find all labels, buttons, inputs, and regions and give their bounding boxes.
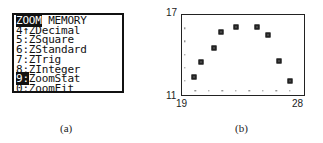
x-tick-mark bbox=[208, 90, 209, 91]
data-point bbox=[266, 32, 271, 37]
y-max-label: 17 bbox=[166, 7, 177, 18]
data-point bbox=[233, 24, 238, 29]
menu-item-key: 0: bbox=[16, 82, 29, 95]
y-tick-mark bbox=[184, 27, 185, 28]
x-min-label: 19 bbox=[176, 98, 187, 109]
caption-a: (a) bbox=[60, 122, 72, 134]
menu-item-zoomfit[interactable]: 0:ZoomFit bbox=[16, 84, 74, 94]
x-tick-mark bbox=[289, 90, 290, 91]
scatter-plot bbox=[181, 14, 305, 96]
data-point bbox=[192, 74, 197, 79]
x-max-label: 28 bbox=[292, 98, 303, 109]
x-tick-mark bbox=[235, 90, 236, 91]
x-tick-mark bbox=[195, 90, 196, 91]
y-tick-mark bbox=[184, 80, 185, 81]
zoom-menu-screen: ZOOM MEMORY 4↑ZDecimal5:ZSquare6:ZStanda… bbox=[12, 13, 124, 93]
data-point bbox=[218, 30, 223, 35]
data-point bbox=[255, 24, 260, 29]
y-tick-mark bbox=[184, 41, 185, 42]
x-tick-mark bbox=[222, 90, 223, 91]
data-point bbox=[276, 59, 281, 64]
data-point bbox=[212, 45, 217, 50]
y-tick-mark bbox=[184, 67, 185, 68]
caption-b: (b) bbox=[235, 122, 248, 134]
y-tick-mark bbox=[184, 54, 185, 55]
y-min-label: 11 bbox=[166, 90, 176, 101]
x-tick-mark bbox=[262, 90, 263, 91]
data-point bbox=[287, 78, 292, 83]
x-tick-mark bbox=[249, 90, 250, 91]
x-tick-mark bbox=[275, 90, 276, 91]
menu-item-label: ZoomFit bbox=[29, 82, 74, 95]
data-point bbox=[198, 60, 203, 65]
